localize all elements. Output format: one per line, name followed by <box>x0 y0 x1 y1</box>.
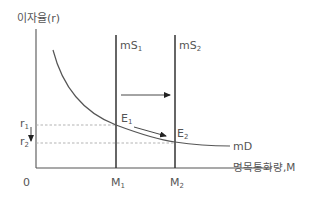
r2-label-sub: 2 <box>25 141 29 149</box>
m2-label-sub: 2 <box>180 182 184 190</box>
supply-1-label: mS1 <box>120 40 142 53</box>
supply-1-label-text: mS <box>120 39 138 52</box>
m2-label-text: M <box>170 176 180 189</box>
e1-label: E1 <box>121 113 132 126</box>
supply-1-label-sub: 1 <box>138 45 142 53</box>
demand-label-text: mD <box>233 140 252 153</box>
m1-label-sub: 1 <box>121 182 125 190</box>
money-market-diagram: 이자율(r) mS1 mS2 E1 E2 mD r1 r2 0 M1 M2 명목… <box>0 0 318 201</box>
e1-label-text: E <box>121 112 128 125</box>
demand-label: mD <box>233 141 252 152</box>
origin-label-text: 0 <box>23 176 30 189</box>
y-axis-label-text: 이자율(r) <box>17 12 60 25</box>
e2-label: E2 <box>177 128 188 141</box>
supply-2-label: mS2 <box>179 40 201 53</box>
origin-label: 0 <box>23 177 30 188</box>
demand-curve <box>53 50 230 146</box>
r1-label-sub: 1 <box>25 123 29 131</box>
supply-2-label-text: mS <box>179 39 197 52</box>
r2-tick-label: r2 <box>20 136 29 149</box>
e1-label-sub: 1 <box>128 118 132 126</box>
e2-label-text: E <box>177 127 184 140</box>
x-axis-label-text: 명목통화량,M <box>233 161 295 173</box>
y-axis-label: 이자율(r) <box>17 13 60 24</box>
e2-label-sub: 2 <box>184 133 188 141</box>
supply-2-label-sub: 2 <box>197 45 201 53</box>
m1-tick-label: M1 <box>111 177 125 190</box>
m2-tick-label: M2 <box>170 177 184 190</box>
m1-label-text: M <box>111 176 121 189</box>
x-axis-label: 명목통화량,M <box>233 162 295 173</box>
equilibrium-move-arrow <box>134 127 166 136</box>
r1-tick-label: r1 <box>20 118 29 131</box>
